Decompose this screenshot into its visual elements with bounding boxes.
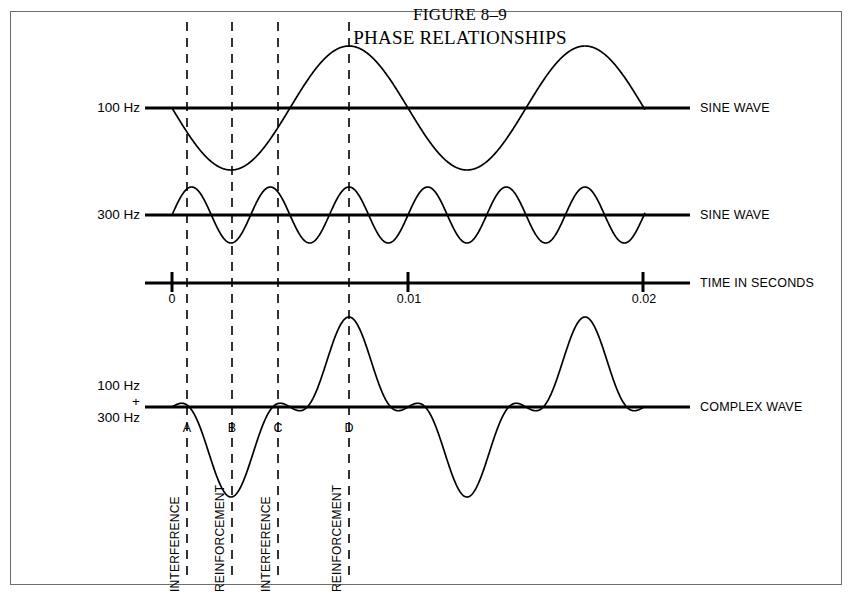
wave-curve-group: [172, 46, 645, 497]
figure-container: FIGURE 8–9 PHASE RELATIONSHIPS 100 Hz 30…: [0, 0, 853, 614]
waveform-plot: [0, 0, 853, 614]
phase-guideline-group: [187, 22, 349, 580]
